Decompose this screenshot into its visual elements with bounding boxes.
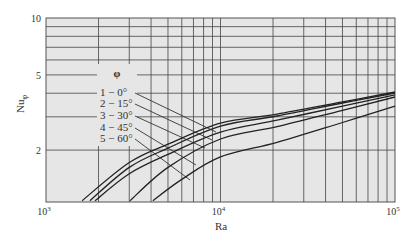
y-axis-label: Nuφ bbox=[14, 95, 29, 113]
y-tick-label: 10 bbox=[31, 13, 41, 24]
x-axis-label: Ra bbox=[215, 220, 227, 232]
y-tick-label: 5 bbox=[36, 70, 41, 81]
legend-item: 2 − 15° bbox=[100, 97, 133, 109]
legend-item: 5 − 60° bbox=[100, 132, 133, 144]
legend-item: 3 − 30° bbox=[100, 109, 133, 121]
chart: 1052 103104105 φ1 − 0°2 − 15°3 − 30°4 − … bbox=[0, 0, 419, 236]
y-tick-labels: 1052 bbox=[31, 13, 41, 156]
x-tick-label: 103 bbox=[37, 205, 51, 217]
x-tick-labels: 103104105 bbox=[37, 205, 400, 217]
y-tick-label: 2 bbox=[36, 145, 41, 156]
legend-title: φ bbox=[114, 67, 121, 79]
x-tick-label: 104 bbox=[212, 205, 226, 217]
x-tick-label: 105 bbox=[386, 205, 400, 217]
